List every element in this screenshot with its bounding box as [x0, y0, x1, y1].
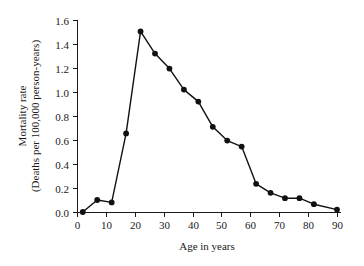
data-point-marker: [80, 209, 86, 215]
axis-titles-group: Age in years Mortality rate (Deaths per …: [16, 40, 235, 252]
y-axis-title-line-1: Mortality rate: [16, 85, 28, 146]
y-tick-label: 1.0: [55, 87, 69, 99]
y-tick-label: 0.0: [55, 207, 69, 219]
x-tick-label: 40: [188, 219, 200, 231]
data-point-marker: [297, 195, 303, 201]
data-point-marker: [94, 197, 100, 203]
y-axis-group: 0.00.20.40.60.81.01.21.41.6: [55, 15, 77, 219]
y-axis-title-line-2: (Deaths per 100,000 person-years): [29, 40, 42, 192]
data-point-marker: [224, 138, 230, 144]
x-axis-group: 0102030405060708090: [75, 213, 344, 232]
data-point-marker: [195, 99, 201, 105]
x-axis-ticks: [78, 213, 338, 217]
x-tick-label: 90: [332, 219, 344, 231]
y-tick-label: 1.6: [55, 15, 69, 27]
data-point-marker: [239, 144, 245, 150]
data-point-marker: [334, 207, 340, 213]
x-axis-title: Age in years: [179, 240, 235, 252]
y-tick-label: 1.4: [55, 39, 69, 51]
data-point-marker: [253, 181, 259, 187]
series-line-mortality-rate: [83, 31, 337, 212]
x-tick-label: 50: [216, 219, 228, 231]
y-tick-label: 0.2: [55, 183, 69, 195]
data-point-marker: [152, 51, 158, 57]
data-point-marker: [123, 131, 129, 137]
data-point-marker: [282, 195, 288, 201]
chart-page: 0.00.20.40.60.81.01.21.41.6 010203040506…: [0, 0, 364, 266]
mortality-rate-line-chart: 0.00.20.40.60.81.01.21.41.6 010203040506…: [0, 0, 364, 266]
x-tick-label: 20: [130, 219, 142, 231]
y-tick-label: 1.2: [55, 63, 69, 75]
y-tick-label: 0.6: [55, 135, 69, 147]
data-point-marker: [109, 200, 115, 206]
data-point-marker: [210, 124, 216, 130]
y-axis-ticks: [73, 21, 77, 213]
data-point-marker: [181, 87, 187, 93]
x-axis-tick-labels: 0102030405060708090: [75, 219, 344, 231]
y-axis-tick-labels: 0.00.20.40.60.81.01.21.41.6: [55, 15, 69, 219]
data-point-marker: [268, 190, 274, 196]
x-tick-label: 80: [303, 219, 315, 231]
data-point-marker: [311, 201, 317, 207]
x-tick-label: 70: [274, 219, 286, 231]
x-tick-label: 0: [75, 219, 81, 231]
data-point-marker: [138, 29, 144, 35]
y-tick-label: 0.4: [55, 159, 69, 171]
y-tick-label: 0.8: [55, 111, 69, 123]
x-tick-label: 10: [101, 219, 113, 231]
x-tick-label: 30: [159, 219, 171, 231]
data-point-marker: [167, 66, 173, 72]
x-tick-label: 60: [245, 219, 257, 231]
data-series-group: [80, 29, 340, 215]
